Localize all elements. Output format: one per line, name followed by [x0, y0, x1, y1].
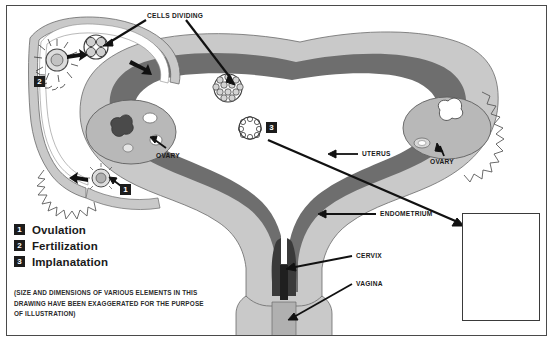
disclaimer-note: (SIZE AND DIMENSIONS OF VARIOUS ELEMENTS… — [14, 288, 244, 320]
embryo-inset-panel: Embryo (4 weeks) — [462, 213, 540, 321]
marker-2-fertilization: 2 — [34, 76, 45, 87]
implanting-blastocyst — [238, 116, 261, 139]
label-vagina: VAGINA — [356, 280, 383, 287]
label-ovary-right: OVARY — [430, 158, 454, 165]
marker-3-implantation: 3 — [266, 122, 277, 133]
embryo-caption-line-2: (4 weeks) — [501, 240, 534, 249]
vagina — [236, 296, 332, 338]
legend-label-implantation: Implanatation — [32, 256, 108, 268]
legend-item-ovulation: 1 Ovulation — [14, 222, 194, 237]
legend-item-implantation: 3 Implanatation — [14, 254, 194, 269]
label-ovary-left: OVARY — [156, 152, 180, 159]
label-uterus: UTERUS — [362, 150, 391, 157]
diagram-canvas: CELLS DIVIDING OVARY OVARY UTERUS ENDOME… — [0, 0, 554, 343]
disclaimer-line-3: OF ILLUSTRATION) — [14, 309, 244, 320]
four-cell-embryo — [84, 35, 108, 59]
marker-1-ovulation: 1 — [120, 184, 131, 195]
legend-num-3: 3 — [14, 256, 25, 267]
right-ovary — [403, 97, 491, 159]
legend: 1 Ovulation 2 Fertilization 3 Implanatat… — [14, 222, 194, 270]
disclaimer-line-1: (SIZE AND DIMENSIONS OF VARIOUS ELEMENTS… — [14, 288, 244, 299]
legend-label-ovulation: Ovulation — [32, 224, 86, 236]
label-cervix: CERVIX — [356, 252, 382, 259]
embryo-inset-caption: Embryo (4 weeks) — [501, 231, 534, 250]
label-cells-dividing: CELLS DIVIDING — [147, 12, 203, 19]
label-endometrium: ENDOMETRIUM — [380, 210, 433, 217]
embryo-caption-line-1: Embryo — [501, 231, 534, 240]
disclaimer-line-2: DRAWING HAVE BEEN EXAGGERATED FOR THE PU… — [14, 299, 244, 310]
legend-label-fertilization: Fertilization — [32, 240, 98, 252]
legend-num-2: 2 — [14, 240, 25, 251]
legend-num-1: 1 — [14, 224, 25, 235]
legend-item-fertilization: 2 Fertilization — [14, 238, 194, 253]
